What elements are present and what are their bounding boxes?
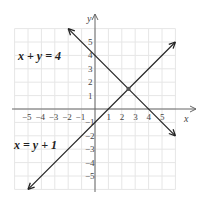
x-tick-label: −3 <box>49 112 59 122</box>
y-tick-label: 3 <box>88 64 93 74</box>
y-tick-label: −2 <box>85 131 95 141</box>
y-tick-label: −4 <box>85 158 95 168</box>
x-tick-label: −2 <box>62 112 72 122</box>
x-axis-label: x <box>183 113 189 124</box>
x-tick-label: 1 <box>106 112 111 122</box>
y-tick-label: 1 <box>88 91 93 101</box>
x-tick-label: −5 <box>22 112 32 122</box>
equation-label-2: x = y + 1 <box>13 138 57 152</box>
x-tick-label: 4 <box>147 112 152 122</box>
y-tick-label: −5 <box>85 171 95 181</box>
equation-label-1: x + y = 4 <box>17 49 61 63</box>
y-tick-label: 5 <box>88 37 93 47</box>
x-tick-label: 3 <box>133 112 138 122</box>
y-tick-label: −3 <box>85 144 95 154</box>
x-tick-label: 2 <box>120 112 125 122</box>
y-tick-label: 2 <box>88 77 93 87</box>
x-tick-label: −1 <box>76 112 86 122</box>
y-axis-label: y <box>86 13 92 24</box>
graph: −5−4−3−2−11234554321−1−2−3−4−5 x + y = 4… <box>0 0 203 201</box>
axes <box>12 14 196 192</box>
y-tick-label: −1 <box>85 117 95 127</box>
intersection-point <box>127 87 131 91</box>
x-tick-label: −4 <box>35 112 45 122</box>
